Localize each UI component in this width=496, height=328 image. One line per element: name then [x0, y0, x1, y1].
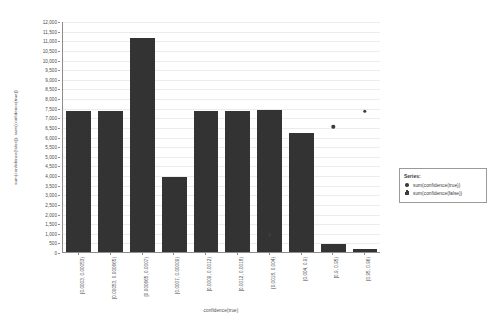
y-tick-mark: [58, 224, 60, 225]
y-tick-mark: [58, 89, 60, 90]
y-tick-mark: [58, 215, 60, 216]
y-tick-label: 4,000: [45, 174, 57, 179]
y-axis: 12,00011,50011,00010,50010,0009,5009,000…: [18, 22, 60, 253]
scatter-series-layer: [63, 22, 380, 252]
y-tick-label: 1,500: [45, 222, 57, 227]
y-tick-label: 9,000: [45, 77, 57, 82]
y-tick-mark: [58, 128, 60, 129]
y-tick-mark: [58, 109, 60, 110]
y-tick-mark: [58, 70, 60, 71]
legend-item-sum-confidence-false[interactable]: sum(confidence(false)): [404, 189, 482, 197]
y-tick-label: 6,000: [45, 135, 57, 140]
x-tick-label: [0.9, 0.95): [334, 257, 339, 278]
y-tick-label: 2,000: [45, 212, 57, 217]
y-tick-label: 11,500: [43, 29, 57, 34]
y-tick-mark: [58, 195, 60, 196]
x-tick-mark: [364, 253, 365, 255]
y-tick-label: 1,000: [45, 231, 57, 236]
x-tick-mark: [332, 253, 333, 255]
y-tick-mark: [58, 22, 60, 23]
y-tick-mark: [58, 166, 60, 167]
x-tick-mark: [110, 253, 111, 255]
x-tick-label: [0.0003, 0.00053): [80, 257, 85, 294]
y-tick-label: 5,000: [45, 154, 57, 159]
bar-icon: [404, 190, 410, 196]
y-tick-mark: [58, 41, 60, 42]
scatter-point[interactable]: [363, 110, 366, 113]
y-tick-label: 500: [49, 241, 57, 246]
x-tick-label: [0.0009, 0.0012): [207, 257, 212, 291]
x-tick-mark: [269, 253, 270, 255]
x-tick-label: [0.00053, 0.000665): [112, 257, 117, 299]
y-tick-label: 6,500: [45, 125, 57, 130]
y-tick-label: 11,000: [43, 39, 57, 44]
scatter-point[interactable]: [332, 125, 335, 128]
y-tick-mark: [58, 186, 60, 187]
y-tick-mark: [58, 118, 60, 119]
y-tick-label: 4,500: [45, 164, 57, 169]
y-tick-label: 10,500: [43, 48, 57, 53]
scatter-point[interactable]: [268, 233, 271, 236]
y-tick-mark: [58, 205, 60, 206]
x-tick-mark: [78, 253, 79, 255]
y-tick-mark: [58, 61, 60, 62]
y-tick-mark: [58, 176, 60, 177]
x-tick-mark: [205, 253, 206, 255]
y-tick-label: 7,500: [45, 106, 57, 111]
x-tick-label: [0.0007, 0.00009): [175, 257, 180, 294]
x-tick-mark: [173, 253, 174, 255]
legend-item-label: sum(confidence(true)): [413, 182, 460, 189]
plot-area: [62, 22, 380, 253]
x-axis: [0.0003, 0.00053)[0.00053, 0.000665)[0.0…: [62, 253, 380, 305]
y-tick-mark: [58, 80, 60, 81]
y-tick-label: 8,000: [45, 97, 57, 102]
y-tick-label: 5,500: [45, 145, 57, 150]
x-tick-mark: [142, 253, 143, 255]
x-axis-title: confidence(true): [62, 308, 380, 314]
y-tick-label: 3,500: [45, 183, 57, 188]
legend-box: Series: sum(confidence(true)) sum(confid…: [399, 168, 487, 203]
y-tick-mark: [58, 51, 60, 52]
x-tick-label: [0.95, 0.96): [366, 257, 371, 281]
y-tick-mark: [58, 234, 60, 235]
y-tick-mark: [58, 32, 60, 33]
y-tick-label: 0: [54, 251, 57, 256]
y-tick-label: 7,000: [45, 116, 57, 121]
y-tick-mark: [58, 147, 60, 148]
y-tick-label: 8,500: [45, 87, 57, 92]
x-tick-mark: [237, 253, 238, 255]
y-tick-mark: [58, 99, 60, 100]
x-tick-label: [0.000665, 0.0007): [144, 257, 149, 296]
legend-item-label: sum(confidence(false)): [413, 190, 462, 197]
y-tick-mark: [58, 157, 60, 158]
y-tick-mark: [58, 138, 60, 139]
x-tick-label: [0.0012, 0.0018): [239, 257, 244, 291]
chart-canvas: sum(confidence(false)), sum(confidence(t…: [0, 0, 496, 328]
x-tick-label: [0.0018, 0.004): [271, 257, 276, 289]
y-tick-label: 3,000: [45, 193, 57, 198]
circle-icon: [404, 182, 410, 188]
y-tick-label: 2,500: [45, 202, 57, 207]
y-tick-label: 12,000: [43, 20, 57, 25]
x-tick-label: [0.004, 0.9): [303, 257, 308, 281]
x-tick-mark: [301, 253, 302, 255]
y-tick-mark: [58, 243, 60, 244]
y-tick-mark: [58, 253, 60, 254]
legend-title: Series:: [404, 173, 482, 180]
y-tick-label: 10,000: [43, 58, 57, 63]
y-tick-label: 9,500: [45, 68, 57, 73]
legend-item-sum-confidence-true[interactable]: sum(confidence(true)): [404, 181, 482, 189]
